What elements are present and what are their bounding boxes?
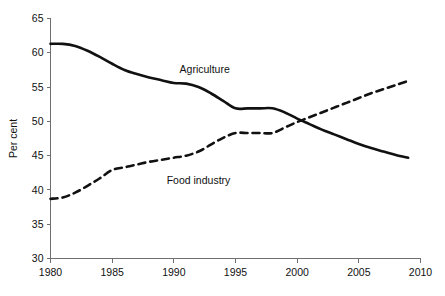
y-tick-label: 40 <box>32 184 44 196</box>
x-tick-label: 2010 <box>409 266 433 278</box>
x-tick-label: 1980 <box>39 266 63 278</box>
y-axis: 3035404550556065 <box>32 12 51 264</box>
series-label-agriculture: Agriculture <box>180 63 230 75</box>
y-tick-label: 55 <box>32 81 44 93</box>
y-tick-label: 50 <box>32 115 44 127</box>
series-labels: AgricultureFood industry <box>167 63 231 186</box>
chart-container: 3035404550556065 19801985199019952000200… <box>0 0 445 296</box>
y-tick-label: 65 <box>32 12 44 24</box>
x-tick-label: 2000 <box>285 266 309 278</box>
y-tick-label: 35 <box>32 218 44 230</box>
y-tick-label: 45 <box>32 149 44 161</box>
x-tick-label: 2005 <box>347 266 371 278</box>
x-tick-label: 1995 <box>224 266 248 278</box>
y-tick-label: 60 <box>32 46 44 58</box>
y-tick-label: 30 <box>32 252 44 264</box>
series-label-food-industry: Food industry <box>167 174 231 186</box>
line-chart: 3035404550556065 19801985199019952000200… <box>0 0 445 296</box>
y-axis-title: Per cent <box>7 119 19 158</box>
x-tick-label: 1985 <box>100 266 124 278</box>
x-axis: 1980198519901995200020052010 <box>39 259 433 278</box>
x-tick-label: 1990 <box>162 266 186 278</box>
